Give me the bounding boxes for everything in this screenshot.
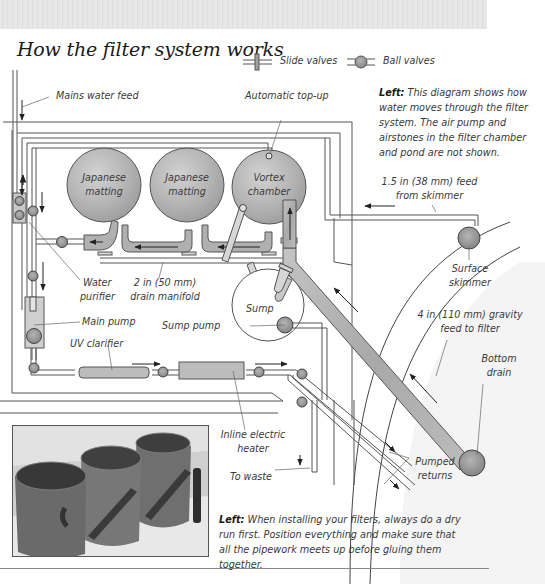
label-drain-manifold: 2 in (50 mm)drain manifold [125, 276, 205, 304]
label-water-purifier: Waterpurifier [80, 276, 115, 304]
caption-text: When installing your filters, always do … [219, 514, 461, 570]
ball-valve-legend-icon [347, 56, 375, 68]
label-sump: Sump [246, 302, 274, 316]
bottom-divider [0, 568, 489, 569]
label-uv-clarifier: UV clarifier [70, 337, 123, 351]
filter-tanks-photo [12, 425, 209, 557]
label-pumped-returns: Pumpedreturns [410, 455, 460, 483]
label-surface-skimmer: Surfaceskimmer [440, 262, 500, 290]
label-gravity-feed: 4 in (110 mm) gravityfeed to filter [410, 308, 530, 336]
legend-ball-valves: Ball valves [383, 54, 435, 68]
photo-illustration [13, 426, 208, 556]
caption-lead: Left: [219, 514, 244, 525]
caption-lead: Left: [379, 87, 404, 98]
uv-clarifier [79, 367, 149, 378]
label-tank-1: Japanesematting [72, 171, 136, 199]
label-sump-pump: Sump pump [162, 319, 220, 333]
label-tank-2: Japanesematting [155, 171, 219, 199]
label-tank-3: Vortexchamber [237, 171, 301, 199]
label-feed-from-skimmer: 1.5 in (38 mm) feedfrom skimmer [372, 175, 487, 203]
label-bottom-drain: Bottomdrain [474, 352, 524, 380]
bottom-drain [459, 450, 485, 476]
outer-frame [0, 60, 352, 420]
slide-valve-legend-icon [243, 54, 272, 70]
label-automatic-top-up: Automatic top-up [245, 89, 329, 103]
drain-manifold [100, 258, 285, 263]
diagram-caption: Left: This diagram shows how water moves… [379, 85, 544, 160]
mains-feed-pipe [13, 70, 17, 200]
label-mains-water-feed: Mains water feed [56, 89, 139, 103]
label-inline-heater: Inline electricheater [218, 428, 288, 456]
photo-caption: Left: When installing your filters, alwa… [219, 512, 469, 572]
label-to-waste: To waste [230, 470, 272, 484]
surface-skimmer [458, 227, 480, 249]
legend-slide-valves: Slide valves [280, 54, 337, 68]
label-main-pump: Main pump [82, 315, 136, 329]
